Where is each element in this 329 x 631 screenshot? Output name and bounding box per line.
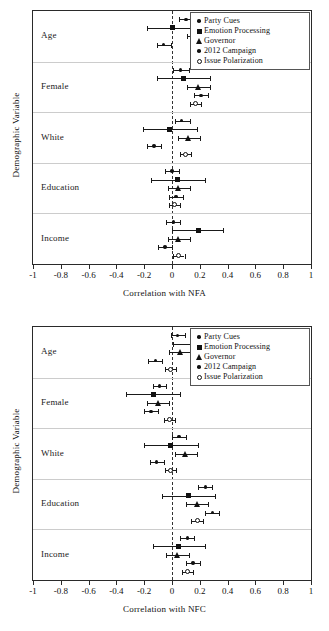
point-marker-party-cues [184,18,188,22]
legend-marker-icon [194,342,204,352]
category-label-education: Education [41,498,79,508]
ci-cap-low [175,119,176,124]
ci-cap-low [173,342,174,347]
ci-cap-low [157,76,158,81]
legend-item-2012-campaign: 2012 Campaign [194,362,305,372]
legend-label: Issue Polarization [204,56,263,66]
ci-cap-low [150,460,151,465]
point-marker-governor [174,552,180,558]
point-marker-emotion-processing [175,177,180,182]
ci-cap-low [165,169,166,174]
x-tick-label: 0.6 [250,586,261,596]
forest-plot-figure: AgeFemaleWhiteEducationIncome Correlatio… [0,0,329,631]
legend-marker-icon [194,46,204,56]
ci-cap-low [162,494,163,499]
ci-cap-high [210,76,211,81]
point-marker-2012-campaign [163,245,167,249]
category-label-income: Income [41,233,69,243]
ci-cap-high [175,418,176,423]
ci-cap-low [186,561,187,566]
x-tick-label: -0.4 [109,270,123,280]
ci-cap-low [182,570,183,575]
x-tick [228,265,229,269]
ci-cap-high [171,43,172,48]
chart-panel-nfa: AgeFemaleWhiteEducationIncome Correlatio… [0,0,329,315]
point-marker-2012-campaign [174,195,178,199]
ci-cap-high [164,460,165,465]
ci-cap-low [168,237,169,242]
point-marker-issue-polarization [168,468,173,473]
ci-cap-low [165,367,166,372]
x-tick [116,265,117,269]
ci-cap-low [147,401,148,406]
x-tick-label: -0.8 [54,586,68,596]
ci-cap-high [169,401,170,406]
point-marker-governor [195,84,201,90]
legend-label: Governor [204,352,235,362]
point-marker-emotion-processing [170,25,175,30]
x-tick [311,581,312,585]
ci-cap-low [180,152,181,157]
group-separator [33,529,311,530]
ci-cap-low [187,85,188,90]
legend-dot-sm-icon [197,49,201,53]
point-marker-issue-polarization [172,202,177,207]
chart-panel-nfc: AgeFemaleWhiteEducationIncome Correlatio… [0,316,329,631]
ci-cap-high [212,485,213,490]
legend-marker-icon [194,352,204,362]
ci-cap-low [173,68,174,73]
ci-cap-low [144,409,145,414]
ci-cap-low [172,435,173,440]
ci-cap-high [189,553,190,558]
point-marker-party-cues [172,220,176,224]
ci-cap-high [219,511,220,516]
point-marker-2012-campaign [155,460,159,464]
legend-nfc: Party CuesEmotion ProcessingGovernor2012… [190,328,310,386]
legend-marker-icon [194,16,204,26]
point-marker-2012-campaign [152,144,156,148]
ci-cap-high [185,254,186,259]
ci-cap-high [190,237,191,242]
point-marker-issue-polarization [168,367,173,372]
ci-cap-high [180,220,181,225]
x-tick [172,265,173,269]
x-tick [61,265,62,269]
legend-label: Governor [204,36,235,46]
ci-cap-low [186,502,187,507]
ci-cap-high [201,102,202,107]
ci-cap-high [191,152,192,157]
legend-triangle-icon [196,38,202,44]
legend-label: 2012 Campaign [204,46,256,56]
group-separator [33,112,311,113]
category-label-female: Female [41,81,69,91]
point-marker-emotion-processing [186,493,191,498]
ci-cap-low [165,468,166,473]
x-tick-label: -1 [29,270,37,280]
point-marker-governor [194,501,200,507]
legend-marker-icon [194,56,204,66]
legend-dot-sm-icon [197,335,201,339]
ci-cap-low [157,43,158,48]
ci-cap-high [197,127,198,132]
legend-item-party-cues: Party Cues [194,332,305,342]
x-tick-label: 0.8 [278,586,289,596]
ci-cap-low [143,127,144,132]
ci-cap-low [158,245,159,250]
point-marker-party-cues [170,169,174,173]
ci-cap-high [190,119,191,124]
x-tick-label: 0.4 [222,270,233,280]
legend-label: Party Cues [204,16,240,26]
point-marker-issue-polarization [193,101,198,106]
legend-item-issue-polarization: Issue Polarization [194,56,305,66]
legend-marker-icon [194,36,204,46]
point-marker-governor [175,236,181,242]
legend-label: Party Cues [204,332,240,342]
legend-item-party-cues: Party Cues [194,16,305,26]
x-tick [283,265,284,269]
legend-item-issue-polarization: Issue Polarization [194,372,305,382]
category-label-female: Female [41,397,69,407]
point-marker-governor [177,349,183,355]
ci-cap-high [190,186,191,191]
ci-cap-low [166,553,167,558]
x-tick [283,581,284,585]
